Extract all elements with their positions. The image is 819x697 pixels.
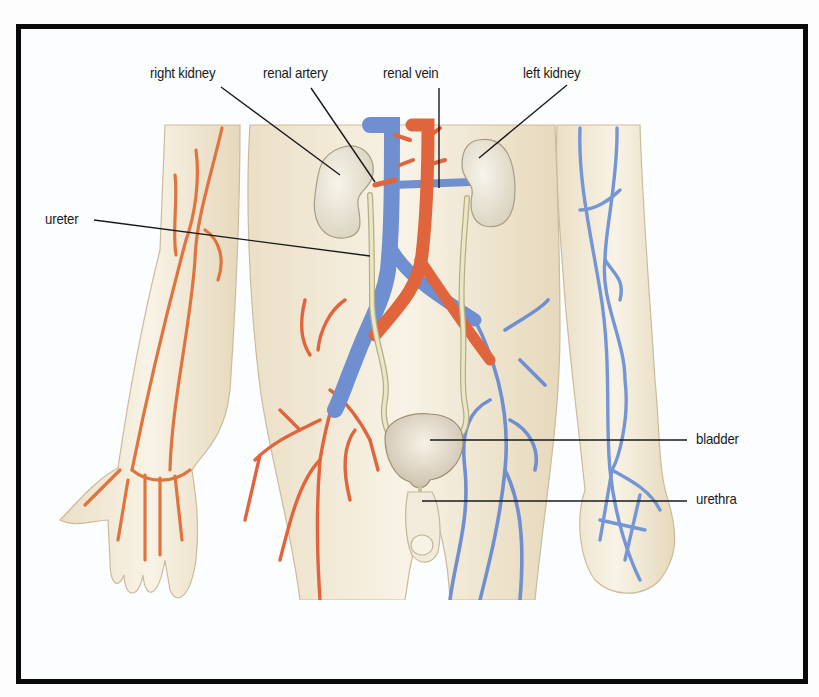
label-urethra: urethra	[696, 490, 737, 507]
label-right-kidney: right kidney	[150, 64, 215, 81]
label-renal-artery: renal artery	[263, 64, 328, 81]
label-left-kidney: left kidney	[523, 64, 581, 81]
genitals	[406, 492, 440, 562]
label-bladder: bladder	[696, 430, 739, 447]
anatomy-illustration	[0, 0, 819, 697]
label-renal-vein: renal vein	[383, 64, 438, 81]
left-arm	[557, 125, 675, 593]
right-arm	[60, 125, 240, 598]
label-ureter: ureter	[45, 210, 78, 227]
